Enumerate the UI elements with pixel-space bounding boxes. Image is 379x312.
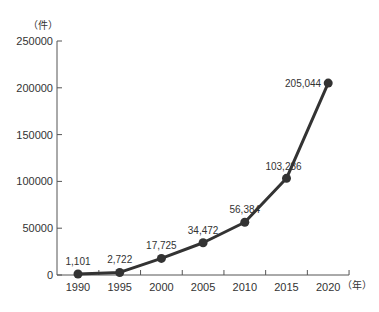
data-point-marker bbox=[324, 79, 333, 88]
data-point-marker bbox=[282, 174, 291, 183]
x-tick-label: 2015 bbox=[274, 281, 298, 293]
y-tick-label: 200000 bbox=[16, 82, 53, 94]
y-tick-label: 50000 bbox=[22, 222, 53, 234]
data-label: 1,101 bbox=[65, 256, 90, 267]
data-labels: 1,1012,72217,72534,47256,384103,286205,0… bbox=[65, 78, 321, 267]
x-tick-label: 2000 bbox=[149, 281, 173, 293]
series-line bbox=[74, 79, 333, 279]
data-point-marker bbox=[199, 238, 208, 247]
data-label: 56,384 bbox=[230, 204, 261, 215]
data-label: 2,722 bbox=[107, 254, 132, 265]
data-point-marker bbox=[157, 254, 166, 263]
x-tick-label: 1995 bbox=[107, 281, 131, 293]
data-label: 205,044 bbox=[285, 78, 322, 89]
y-tick-label: 100000 bbox=[16, 175, 53, 187]
x-tick-label: 2010 bbox=[233, 281, 257, 293]
y-tick-label: 150000 bbox=[16, 129, 53, 141]
y-axis: 050000100000150000200000250000 bbox=[16, 35, 62, 281]
x-tick-label: 1990 bbox=[66, 281, 90, 293]
y-tick-label: 250000 bbox=[16, 35, 53, 47]
line-chart: 050000100000150000200000250000 199019952… bbox=[0, 0, 379, 312]
x-tick-label: 2020 bbox=[316, 281, 340, 293]
data-label: 103,286 bbox=[265, 161, 302, 172]
y-tick-label: 0 bbox=[47, 269, 53, 281]
x-tick-label: 2005 bbox=[191, 281, 215, 293]
data-point-marker bbox=[240, 218, 249, 227]
data-point-marker bbox=[115, 268, 124, 277]
data-label: 17,725 bbox=[146, 240, 177, 251]
x-axis-unit-label: （年） bbox=[342, 279, 372, 291]
data-label: 34,472 bbox=[188, 225, 219, 236]
data-point-marker bbox=[74, 269, 83, 278]
y-axis-unit-label: （件） bbox=[28, 20, 58, 31]
